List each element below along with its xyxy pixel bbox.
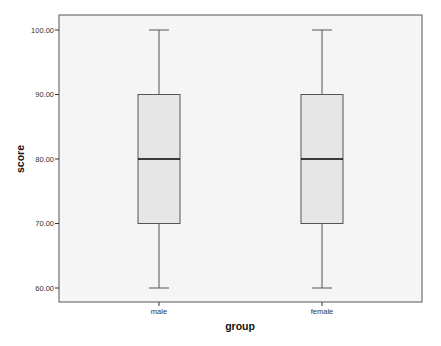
- y-tick-label: 80.00: [35, 155, 54, 164]
- x-tick-label-male: male: [151, 307, 167, 316]
- y-tick-label: 90.00: [35, 90, 54, 99]
- plot-area: [59, 15, 422, 302]
- x-axis-title: group: [225, 320, 255, 332]
- x-axis: malefemale: [151, 302, 333, 316]
- y-tick-label: 60.00: [35, 284, 54, 293]
- y-tick-label: 70.00: [35, 219, 54, 228]
- y-axis-title: score: [14, 145, 26, 173]
- y-axis: 60.0070.0080.0090.00100.00: [31, 26, 59, 293]
- box-plot-chart: 60.0070.0080.0090.00100.00 malefemale sc…: [0, 0, 441, 346]
- y-tick-label: 100.00: [31, 26, 54, 35]
- x-tick-label-female: female: [311, 307, 334, 316]
